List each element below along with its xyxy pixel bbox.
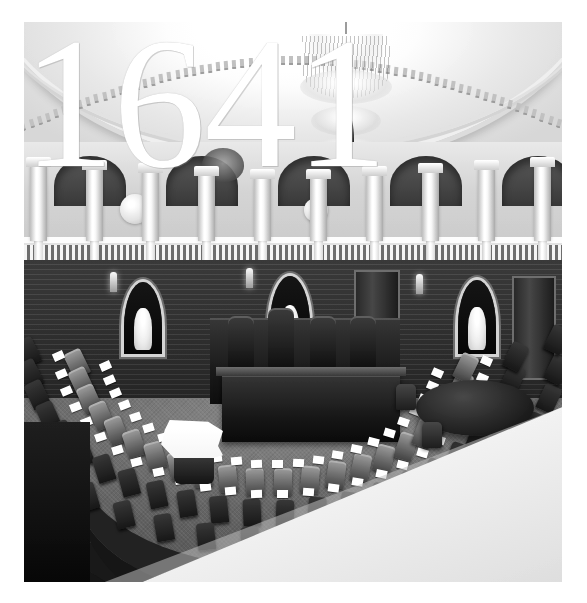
desk-paper xyxy=(118,399,131,410)
desk-paper xyxy=(328,483,340,492)
desk-paper xyxy=(99,360,112,372)
desk-paper xyxy=(109,387,122,399)
desk-paper xyxy=(397,417,410,428)
desk-paper xyxy=(94,431,107,442)
desk-paper xyxy=(131,457,144,468)
desk-paper xyxy=(152,467,165,477)
side-chair-1 xyxy=(396,384,416,410)
desk-paper xyxy=(111,445,124,456)
desk-paper xyxy=(383,427,396,438)
desk-paper xyxy=(416,448,429,459)
desk-paper xyxy=(60,385,73,397)
desk-paper xyxy=(312,455,324,464)
desk-paper xyxy=(302,488,314,497)
desk-paper xyxy=(103,374,116,386)
desk-paper xyxy=(52,351,65,363)
desk-paper xyxy=(224,487,236,496)
foreground-left-shadow xyxy=(24,422,90,582)
side-chair-2 xyxy=(422,422,442,448)
desk-paper xyxy=(479,355,492,367)
desk-paper xyxy=(231,457,243,466)
desk-paper xyxy=(54,368,67,380)
desk-paper xyxy=(250,489,261,497)
desk-paper xyxy=(69,401,82,413)
desk-paper xyxy=(292,458,303,467)
year-overlay: 1641 xyxy=(22,10,582,196)
page-root: 1641 xyxy=(0,0,587,603)
desk-paper xyxy=(129,411,142,422)
desk-paper xyxy=(332,450,344,460)
desk-paper xyxy=(277,490,288,498)
speaking-podium-base xyxy=(174,458,214,484)
desk-paper xyxy=(142,422,155,433)
desk-paper xyxy=(272,460,283,468)
desk-paper xyxy=(350,444,362,454)
desk-paper xyxy=(367,436,380,446)
desk-paper xyxy=(431,367,444,379)
desk-paper xyxy=(251,459,262,467)
